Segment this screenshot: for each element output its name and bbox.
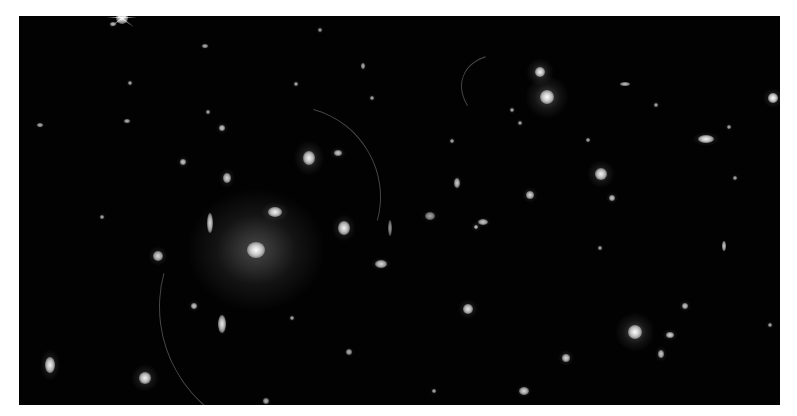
galaxy bbox=[595, 168, 607, 180]
brightest-cluster-galaxy bbox=[247, 242, 265, 258]
galaxy bbox=[318, 28, 322, 32]
galaxy bbox=[207, 213, 213, 233]
galaxy bbox=[290, 316, 294, 320]
bright-star bbox=[116, 16, 128, 24]
galaxy bbox=[628, 325, 642, 339]
galaxy bbox=[370, 96, 374, 100]
galaxy bbox=[620, 82, 630, 86]
galaxy bbox=[519, 387, 529, 395]
galaxy bbox=[454, 178, 460, 188]
galaxy bbox=[518, 121, 522, 125]
galaxy bbox=[346, 349, 352, 355]
galaxy bbox=[598, 246, 602, 250]
galaxy bbox=[388, 220, 392, 236]
galaxy bbox=[562, 354, 570, 362]
galaxy bbox=[45, 357, 55, 373]
galaxy bbox=[100, 215, 104, 219]
galaxy bbox=[425, 212, 435, 220]
galaxy bbox=[294, 82, 298, 86]
galaxy bbox=[666, 332, 674, 338]
galaxy bbox=[361, 63, 365, 69]
galaxy bbox=[658, 350, 664, 358]
galaxy bbox=[334, 150, 342, 156]
galaxy bbox=[654, 103, 658, 107]
galaxy bbox=[153, 251, 163, 261]
galaxy bbox=[478, 219, 488, 225]
galaxy bbox=[191, 303, 197, 309]
galaxy bbox=[535, 67, 545, 77]
galaxy bbox=[463, 304, 473, 314]
galaxy bbox=[218, 315, 226, 333]
lensing-arc bbox=[449, 38, 592, 157]
galaxy bbox=[586, 138, 590, 142]
galaxy bbox=[682, 303, 688, 309]
galaxy bbox=[450, 139, 454, 143]
galaxy bbox=[206, 110, 210, 114]
galaxy bbox=[722, 241, 726, 251]
galaxy-cluster-image bbox=[19, 16, 780, 405]
galaxy bbox=[110, 22, 116, 26]
star bbox=[768, 93, 778, 103]
galaxy bbox=[727, 125, 731, 129]
galaxy bbox=[540, 90, 554, 104]
galaxy bbox=[124, 119, 130, 123]
galaxy bbox=[609, 195, 615, 201]
galaxy bbox=[263, 398, 269, 404]
galaxy bbox=[733, 176, 737, 180]
galaxy bbox=[128, 81, 132, 85]
galaxy bbox=[37, 123, 43, 127]
galaxy bbox=[768, 323, 772, 327]
galaxy bbox=[139, 372, 151, 384]
galaxy bbox=[268, 207, 282, 217]
galaxy bbox=[375, 260, 387, 268]
galaxy bbox=[526, 191, 534, 199]
galaxy bbox=[698, 135, 714, 143]
galaxy bbox=[338, 221, 350, 235]
galaxy bbox=[219, 125, 225, 131]
galaxy bbox=[180, 159, 186, 165]
galaxy bbox=[510, 108, 514, 112]
galaxy bbox=[223, 173, 231, 183]
galaxy bbox=[432, 389, 436, 393]
galaxy bbox=[202, 44, 208, 48]
galaxy bbox=[303, 151, 315, 165]
